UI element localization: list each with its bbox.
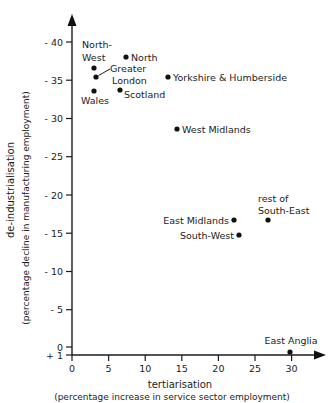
point-label-south-west: South-West bbox=[180, 230, 234, 241]
y-tick-label: - 15 bbox=[44, 228, 63, 239]
data-point-west-midlands[interactable]: West Midlands bbox=[174, 124, 250, 135]
point-marker[interactable] bbox=[91, 88, 96, 93]
point-marker[interactable] bbox=[91, 65, 96, 70]
data-point-south-west[interactable]: South-West bbox=[180, 230, 242, 241]
point-marker[interactable] bbox=[165, 74, 170, 79]
scatter-chart-figure: + 1 0 - 5 - 10 - 15 - 20 - 25 - 30 - 35 bbox=[0, 0, 336, 403]
y-tick-label: - 10 bbox=[44, 266, 63, 277]
y-tick-label: - 20 bbox=[44, 190, 63, 201]
point-label-north-west-line2: West bbox=[82, 52, 106, 63]
y-tick-label: - 35 bbox=[44, 75, 63, 86]
y-axis-arrowhead bbox=[68, 14, 77, 26]
data-point-greater-london[interactable]: Greater London bbox=[93, 63, 146, 86]
point-label-scotland: Scotland bbox=[124, 89, 165, 100]
x-tick-label: 20 bbox=[212, 363, 224, 374]
data-points-group: North- West North Greater London Wales bbox=[81, 39, 318, 355]
point-label-north: North bbox=[131, 52, 158, 63]
point-label-wales: Wales bbox=[81, 95, 109, 106]
data-point-wales[interactable]: Wales bbox=[81, 88, 109, 105]
point-marker[interactable] bbox=[174, 126, 179, 131]
x-tick-label: 10 bbox=[139, 363, 151, 374]
y-tick-label: - 40 bbox=[44, 37, 63, 48]
point-marker[interactable] bbox=[287, 349, 292, 354]
y-axis-subtitle: (percentage decline in manufacturing emp… bbox=[21, 91, 31, 324]
x-axis-title: tertiarisation bbox=[148, 379, 212, 390]
data-point-scotland[interactable]: Scotland bbox=[117, 87, 165, 99]
x-tick-label: 25 bbox=[249, 363, 261, 374]
y-axis-ticks: + 1 0 - 5 - 10 - 15 - 20 - 25 - 30 - 35 bbox=[44, 37, 72, 361]
point-marker[interactable] bbox=[265, 217, 270, 222]
axis-lines bbox=[68, 14, 327, 360]
x-tick-label: 15 bbox=[176, 363, 188, 374]
point-label-greater-london-line1: Greater bbox=[110, 63, 146, 74]
data-point-rest-of-south-east[interactable]: rest of South-East bbox=[258, 193, 310, 223]
x-tick-label: 30 bbox=[286, 363, 298, 374]
y-tick-label: - 30 bbox=[44, 113, 63, 124]
x-tick-label: 5 bbox=[106, 363, 112, 374]
point-marker[interactable] bbox=[93, 74, 98, 79]
point-marker[interactable] bbox=[236, 232, 241, 237]
greater-london-leader-line bbox=[99, 69, 111, 76]
scatter-plot-svg: + 1 0 - 5 - 10 - 15 - 20 - 25 - 30 - 35 bbox=[0, 0, 336, 403]
x-axis-arrowhead bbox=[314, 351, 326, 360]
point-label-rest-of-south-east-line2: South-East bbox=[258, 205, 310, 216]
point-marker[interactable] bbox=[117, 87, 122, 92]
point-label-yorkshire-humberside: Yorkshire & Humberside bbox=[172, 72, 287, 83]
point-label-rest-of-south-east-line1: rest of bbox=[258, 193, 289, 204]
data-point-east-midlands[interactable]: East Midlands bbox=[163, 215, 236, 226]
data-point-north[interactable]: North bbox=[123, 52, 157, 63]
data-point-yorkshire-humberside[interactable]: Yorkshire & Humberside bbox=[165, 72, 287, 83]
point-label-east-anglia: East Anglia bbox=[264, 335, 317, 346]
data-point-east-anglia[interactable]: East Anglia bbox=[264, 335, 317, 355]
x-tick-label: 0 bbox=[69, 363, 75, 374]
data-point-north-west[interactable]: North- West bbox=[82, 39, 112, 71]
point-marker[interactable] bbox=[231, 217, 236, 222]
point-marker[interactable] bbox=[123, 54, 128, 59]
y-tick-label: 0 bbox=[57, 342, 63, 353]
y-tick-label: - 5 bbox=[51, 304, 64, 315]
x-axis-subtitle: (percentage increase in service sector e… bbox=[54, 392, 290, 402]
x-axis-ticks: 0 5 10 15 20 25 30 bbox=[69, 355, 298, 374]
y-tick-label: - 25 bbox=[44, 151, 63, 162]
point-label-greater-london-line2: London bbox=[112, 75, 147, 86]
point-label-east-midlands: East Midlands bbox=[163, 215, 229, 226]
point-label-west-midlands: West Midlands bbox=[182, 124, 251, 135]
point-label-north-west-line1: North- bbox=[82, 39, 112, 50]
y-axis-title: de-industrialisation bbox=[5, 142, 16, 238]
